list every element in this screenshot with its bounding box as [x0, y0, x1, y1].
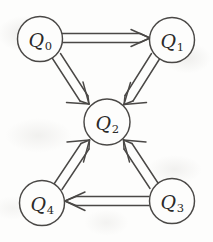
edge-q0-q2 [53, 54, 90, 105]
node-label-q4: Q4 [31, 193, 54, 215]
node-label-q2: Q2 [96, 112, 119, 134]
figure-root: Q0 Q1 Q2 Q3 Q4 [0, 0, 213, 242]
node-label-q0: Q0 [29, 29, 52, 51]
arrowhead-q4-q2-barb2 [84, 140, 90, 162]
arrowhead-q3-q2-barb2 [124, 140, 130, 162]
edge-q3-q2 [124, 140, 159, 189]
edge-q0-q1 [62, 30, 150, 47]
edge-q1-q2 [124, 54, 160, 105]
edge-q3-q4 [65, 192, 149, 211]
arrowhead-q1-q2-barb2 [124, 83, 131, 105]
node-label-q1: Q1 [161, 30, 184, 52]
arrowhead-q0-q2-barb2 [83, 82, 89, 104]
node-label-q3: Q3 [161, 191, 184, 213]
edge-q4-q2 [54, 140, 90, 190]
